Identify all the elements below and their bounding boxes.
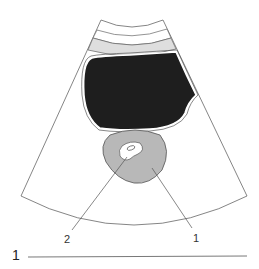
figure-number: 1: [12, 247, 20, 263]
sector-bottom-arc: [21, 196, 247, 225]
label-1: 1: [193, 232, 199, 244]
label-2: 2: [64, 233, 70, 245]
figure-rule: [28, 256, 247, 257]
dark-region: [84, 52, 196, 130]
leader-line-2: [72, 157, 127, 230]
ultrasound-diagram: [0, 0, 259, 269]
sector-top-arc: [101, 20, 163, 27]
leader-line-1: [152, 168, 192, 228]
